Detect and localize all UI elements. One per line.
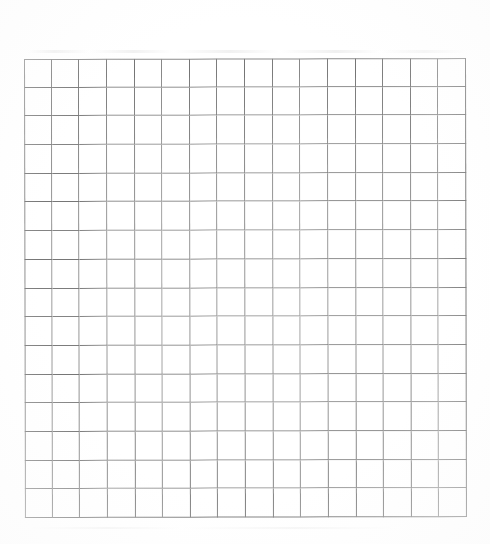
grid-cell[interactable] bbox=[162, 87, 190, 116]
grid-cell[interactable] bbox=[80, 317, 108, 346]
grid-cell[interactable] bbox=[355, 58, 383, 87]
grid-cell[interactable] bbox=[80, 346, 108, 375]
grid-cell[interactable] bbox=[246, 431, 274, 460]
grid-cell[interactable] bbox=[301, 259, 329, 288]
grid-cell[interactable] bbox=[24, 288, 52, 317]
grid-cell[interactable] bbox=[218, 317, 246, 346]
grid-cell[interactable] bbox=[411, 87, 439, 116]
grid-cell[interactable] bbox=[384, 374, 412, 403]
grid-cell[interactable] bbox=[162, 202, 190, 231]
grid-cell[interactable] bbox=[52, 403, 80, 432]
grid-cell[interactable] bbox=[412, 488, 440, 517]
grid-cell[interactable] bbox=[411, 402, 439, 431]
grid-cell[interactable] bbox=[107, 59, 135, 88]
grid-cell[interactable] bbox=[107, 317, 135, 346]
grid-cell[interactable] bbox=[218, 202, 246, 231]
grid-cell[interactable] bbox=[53, 489, 81, 518]
grid-cell[interactable] bbox=[162, 231, 190, 260]
grid-cell[interactable] bbox=[356, 202, 384, 231]
grid-cell[interactable] bbox=[135, 460, 163, 489]
grid-cell[interactable] bbox=[411, 144, 439, 173]
grid-cell[interactable] bbox=[163, 489, 191, 518]
grid-cell[interactable] bbox=[190, 345, 218, 374]
grid-cell[interactable] bbox=[163, 288, 191, 317]
grid-cell[interactable] bbox=[328, 230, 356, 259]
grid-cell[interactable] bbox=[411, 259, 439, 288]
grid-cell[interactable] bbox=[190, 87, 218, 116]
grid-cell[interactable] bbox=[245, 58, 273, 87]
grid-cell[interactable] bbox=[135, 317, 163, 346]
grid-cell[interactable] bbox=[301, 230, 329, 259]
grid-cell[interactable] bbox=[384, 259, 412, 288]
grid-cell[interactable] bbox=[300, 58, 328, 87]
grid-cell[interactable] bbox=[384, 489, 412, 518]
grid-cell[interactable] bbox=[107, 288, 135, 317]
grid-cell[interactable] bbox=[438, 87, 466, 116]
grid-cell[interactable] bbox=[218, 259, 246, 288]
grid-cell[interactable] bbox=[439, 402, 467, 431]
grid-cell[interactable] bbox=[135, 346, 163, 375]
grid-cell[interactable] bbox=[274, 489, 302, 518]
grid-cell[interactable] bbox=[80, 260, 108, 289]
grid-cell[interactable] bbox=[301, 202, 329, 231]
grid-cell[interactable] bbox=[52, 202, 80, 231]
grid-cell[interactable] bbox=[439, 144, 467, 173]
grid-cell[interactable] bbox=[162, 59, 190, 88]
grid-cell[interactable] bbox=[52, 59, 80, 88]
grid-cell[interactable] bbox=[245, 87, 273, 116]
grid-cell[interactable] bbox=[190, 59, 218, 88]
grid-cell[interactable] bbox=[356, 230, 384, 259]
grid-cell[interactable] bbox=[107, 116, 135, 145]
grid-cell[interactable] bbox=[439, 374, 467, 403]
grid-cell[interactable] bbox=[80, 231, 108, 260]
grid-cell[interactable] bbox=[135, 145, 163, 174]
grid-cell[interactable] bbox=[107, 174, 135, 203]
grid-cell[interactable] bbox=[300, 173, 328, 202]
grid-cell[interactable] bbox=[328, 288, 356, 317]
grid-cell[interactable] bbox=[217, 59, 245, 88]
grid-cell[interactable] bbox=[328, 345, 356, 374]
grid-cell[interactable] bbox=[24, 88, 52, 117]
grid-cell[interactable] bbox=[107, 260, 135, 289]
grid-cell[interactable] bbox=[439, 202, 467, 231]
grid-cell[interactable] bbox=[356, 288, 384, 317]
grid-cell[interactable] bbox=[218, 345, 246, 374]
grid-cell[interactable] bbox=[80, 374, 108, 403]
grid-cell[interactable] bbox=[218, 145, 246, 174]
grid-cell[interactable] bbox=[246, 317, 274, 346]
grid-cell[interactable] bbox=[356, 374, 384, 403]
grid-cell[interactable] bbox=[24, 145, 52, 174]
grid-cell[interactable] bbox=[245, 231, 273, 260]
grid-cell[interactable] bbox=[356, 173, 384, 202]
grid-cell[interactable] bbox=[384, 460, 412, 489]
grid-cell[interactable] bbox=[273, 144, 301, 173]
grid-cell[interactable] bbox=[328, 259, 356, 288]
grid-cell[interactable] bbox=[52, 317, 80, 346]
grid-cell[interactable] bbox=[329, 431, 357, 460]
grid-cell[interactable] bbox=[383, 116, 411, 145]
grid-cell[interactable] bbox=[80, 403, 108, 432]
grid-cell[interactable] bbox=[246, 403, 274, 432]
grid-cell[interactable] bbox=[412, 431, 440, 460]
grid-cell[interactable] bbox=[411, 202, 439, 231]
grid-cell[interactable] bbox=[108, 403, 136, 432]
grid-cell[interactable] bbox=[439, 460, 467, 489]
grid-cell[interactable] bbox=[411, 316, 439, 345]
grid-cell[interactable] bbox=[80, 202, 108, 231]
grid-cell[interactable] bbox=[356, 259, 384, 288]
grid-cell[interactable] bbox=[135, 87, 163, 116]
grid-cell[interactable] bbox=[135, 489, 163, 518]
grid-cell[interactable] bbox=[79, 116, 107, 145]
grid-cell[interactable] bbox=[273, 87, 301, 116]
grid-cell[interactable] bbox=[411, 288, 439, 317]
grid-cell[interactable] bbox=[190, 173, 218, 202]
grid-cell[interactable] bbox=[273, 317, 301, 346]
grid-cell[interactable] bbox=[411, 58, 439, 87]
grid-cell[interactable] bbox=[301, 431, 329, 460]
grid-cell[interactable] bbox=[80, 288, 108, 317]
grid-cell[interactable] bbox=[412, 460, 440, 489]
grid-cell[interactable] bbox=[24, 202, 52, 231]
grid-cell[interactable] bbox=[217, 87, 245, 116]
grid-cell[interactable] bbox=[246, 460, 274, 489]
grid-cell[interactable] bbox=[383, 202, 411, 231]
